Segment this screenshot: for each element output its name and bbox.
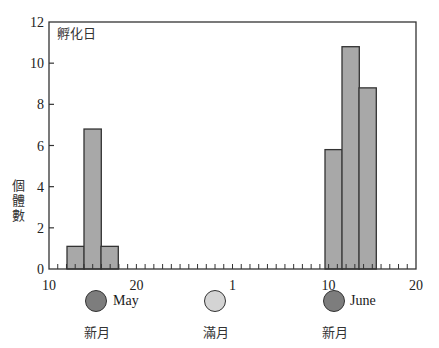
new-moon-icon <box>323 290 345 312</box>
y-axis-label-char: 體 <box>12 193 28 208</box>
y-axis-label-char: 個 <box>12 178 28 193</box>
full-moon-icon <box>204 290 226 312</box>
x-tick-label: 1 <box>229 278 236 293</box>
x-tick-label: 10 <box>42 278 56 293</box>
new-moon-label: 新月 <box>84 322 110 341</box>
month-label-june: June <box>350 293 376 309</box>
x-tick-label: 20 <box>129 278 143 293</box>
y-tick-label: 6 <box>37 139 44 154</box>
histogram-bar <box>359 88 376 269</box>
month-label-may: May <box>113 293 139 309</box>
y-tick-label: 10 <box>30 56 44 71</box>
bars <box>67 47 376 269</box>
new-moon-icon <box>85 290 107 312</box>
y-tick-label: 8 <box>37 97 44 112</box>
y-tick-label: 12 <box>30 15 44 30</box>
y-tick-label: 2 <box>37 221 44 236</box>
y-tick-label: 0 <box>37 262 44 277</box>
histogram-bar <box>342 47 359 269</box>
full-moon-label: 滿月 <box>203 322 229 341</box>
new-moon-label: 新月 <box>322 322 348 341</box>
y-tick-label: 4 <box>37 180 44 195</box>
histogram-bar <box>101 246 118 269</box>
x-tick-label: 20 <box>409 278 423 293</box>
histogram-bar <box>84 129 101 269</box>
y-axis-label-char: 數 <box>12 208 28 223</box>
y-axis-label: 個 體 數 <box>12 178 28 223</box>
histogram-bar <box>325 150 342 269</box>
chart-title: 孵化日 <box>57 26 96 41</box>
